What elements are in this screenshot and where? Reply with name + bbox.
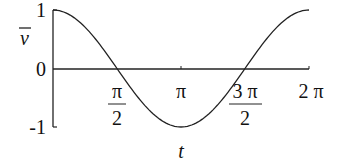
- x-tick-label-pi: π: [176, 80, 186, 102]
- x-tick-label-2pi: 2 π: [298, 80, 323, 102]
- chart: 1 0 -1 v π 2 π 3 π 2 2 π t: [0, 0, 344, 167]
- x-tick-label-pi2-num: π: [112, 80, 122, 102]
- y-axis-label: v: [20, 27, 29, 49]
- x-axis-label: t: [178, 140, 184, 162]
- y-tick-label-1: 1: [36, 0, 46, 21]
- x-tick-label-pi2-den: 2: [112, 107, 122, 129]
- x-tick-label-3pi2-num: 3 π: [232, 80, 257, 102]
- y-tick-label-0: 0: [36, 58, 46, 80]
- x-tick-label-3pi2-den: 2: [240, 107, 250, 129]
- y-tick-label-minus1: -1: [29, 116, 46, 138]
